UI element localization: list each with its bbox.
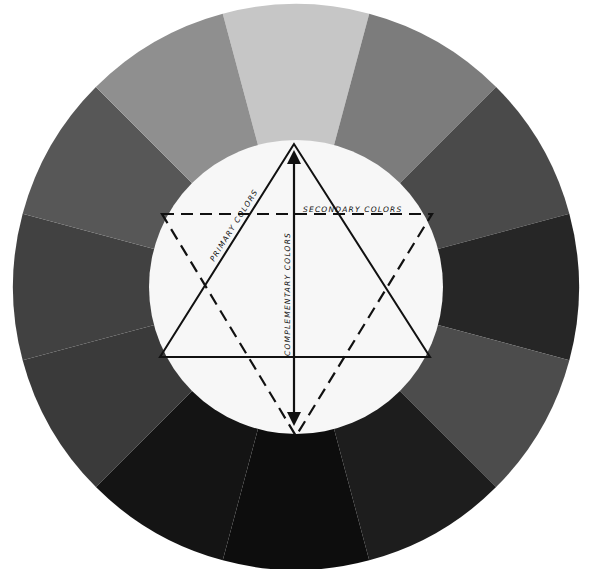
inner-white-circle xyxy=(149,140,443,434)
complementary-colors-label: COMPLEMENTARY COLORS xyxy=(283,232,292,356)
secondary-colors-label: SECONDARY COLORS xyxy=(303,205,403,214)
color-wheel-diagram: PRIMARY COLORS SECONDARY COLORS COMPLEME… xyxy=(0,0,591,569)
